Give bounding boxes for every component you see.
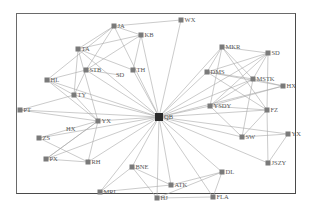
node-label: DL [226, 168, 235, 175]
node-marker-icon [84, 68, 89, 73]
node-label: TA [82, 45, 90, 52]
node-hxl: HX [66, 125, 76, 132]
node-ja: JA [112, 22, 126, 29]
edge-qb-kb [141, 35, 159, 117]
edge-ja-stb [86, 26, 114, 70]
node-label: ATK [175, 181, 188, 188]
edge-qb-atk [159, 117, 171, 185]
edge-qb-dms [159, 72, 207, 117]
node-label: MSTK [257, 75, 275, 82]
network-diagram: QBJAKBWXTASTBSDTHHLTYPTYXHXZSPXRHBNEMRLA… [0, 0, 312, 218]
node-rh: RH [86, 158, 101, 165]
node-label: MRL [104, 188, 118, 195]
node-marker-icon [155, 196, 160, 201]
node-label: YSDY [214, 102, 232, 109]
node-label: KB [145, 31, 155, 38]
node-marker-icon [169, 183, 174, 188]
node-label: RH [92, 158, 101, 165]
node-marker-icon [266, 51, 271, 56]
edge-bne-hj [132, 167, 157, 198]
node-marker-icon [44, 157, 49, 162]
node-sdr: SD [266, 49, 281, 56]
node-marker-icon [251, 77, 256, 82]
node-th: TH [131, 66, 146, 73]
node-label: SD [272, 49, 281, 56]
node-sw: SW [240, 133, 257, 140]
node-label: JSZY [272, 159, 287, 166]
node-label: PT [24, 106, 32, 113]
node-marker-icon [130, 165, 135, 170]
node-label: MKR [226, 43, 241, 50]
node-label: TY [78, 91, 87, 98]
node-label: HX [287, 82, 297, 89]
edge-fz-jszy [267, 110, 268, 163]
node-label: PX [50, 155, 59, 162]
node-marker-icon [266, 161, 271, 166]
edge-ja-hl [47, 26, 114, 80]
node-label: JA [118, 22, 126, 29]
node-px: PX [44, 155, 59, 162]
node-jszy: JSZY [266, 159, 287, 166]
node-marker-icon [211, 195, 216, 200]
node-mkr: MKR [220, 43, 241, 50]
edge-qb-wx [159, 20, 181, 117]
node-fla: FLA [211, 193, 230, 200]
node-label: FLA [217, 193, 230, 200]
node-sdl: SD [116, 71, 125, 78]
node-zs: ZS [37, 134, 51, 141]
node-label: FZ [271, 106, 279, 113]
node-label: QB [164, 113, 174, 120]
edge-qb-yxr [159, 117, 288, 134]
node-label: TH [137, 66, 146, 73]
node-dms: DMS [205, 68, 225, 75]
node-marker-icon [96, 119, 101, 124]
node-marker-icon [265, 108, 270, 113]
node-qb: QB [155, 113, 174, 121]
node-marker-icon [112, 24, 117, 29]
node-atk: ATK [169, 181, 188, 188]
node-label: YX [292, 130, 302, 137]
node-marker-icon [72, 93, 77, 98]
node-dl: DL [220, 168, 235, 175]
node-yxl: YX [96, 117, 112, 124]
node-marker-icon [155, 113, 163, 121]
edge-qb-hl [47, 80, 159, 117]
node-marker-icon [179, 18, 184, 23]
node-ysdy: YSDY [208, 102, 232, 109]
node-marker-icon [240, 135, 245, 140]
node-ty: TY [72, 91, 87, 98]
node-marker-icon [139, 33, 144, 38]
node-marker-icon [281, 84, 286, 89]
edge-layer [20, 20, 288, 198]
node-label: SW [246, 133, 257, 140]
node-marker-icon [76, 47, 81, 52]
edge-mstk-sw [242, 79, 253, 137]
node-label: STB [90, 66, 103, 73]
node-label: ZS [43, 134, 51, 141]
node-ta: TA [76, 45, 90, 52]
node-label: YX [102, 117, 112, 124]
node-marker-icon [220, 45, 225, 50]
node-label: BNE [136, 163, 149, 170]
node-stb: STB [84, 66, 103, 73]
node-mrl: MRL [98, 188, 118, 195]
node-marker-icon [86, 160, 91, 165]
node-layer: QBJAKBWXTASTBSDTHHLTYPTYXHXZSPXRHBNEMRLA… [18, 16, 302, 201]
node-marker-icon [37, 136, 42, 141]
node-wx: WX [179, 16, 196, 23]
edge-qb-hj [157, 117, 159, 198]
node-mstk: MSTK [251, 75, 275, 82]
node-marker-icon [286, 132, 291, 137]
node-label: WX [185, 16, 196, 23]
node-pt: PT [18, 106, 32, 113]
edge-mkr-ysdy [210, 47, 222, 106]
edge-mkr-mstk [222, 47, 253, 79]
node-label: DMS [211, 68, 225, 75]
node-fz: FZ [265, 106, 279, 113]
node-hxr: HX [281, 82, 297, 89]
node-marker-icon [98, 190, 103, 195]
node-marker-icon [205, 70, 210, 75]
edge-ysdy-sw [210, 106, 242, 137]
node-marker-icon [131, 68, 136, 73]
node-marker-icon [45, 78, 50, 83]
